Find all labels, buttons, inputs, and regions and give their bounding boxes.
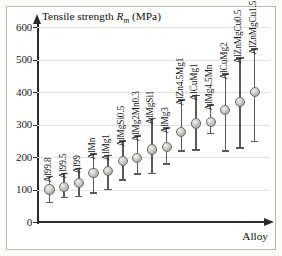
- error-bar-cap-lower: [148, 173, 155, 175]
- data-point-marker[interactable]: [74, 178, 84, 188]
- plot-area: Al99.8Al99.5Al99AlMnAlMg1AlMgSi0.5AlMg2M…: [37, 27, 270, 222]
- x-axis-category-label: AlMg4.5Mn: [205, 65, 215, 111]
- error-bar-cap-lower: [61, 197, 68, 199]
- y-axis-tick-label: 0: [0, 217, 32, 228]
- x-axis-category-label: AlMgSi1: [146, 90, 156, 124]
- y-axis-tick-label: 300: [0, 119, 32, 130]
- data-point-marker[interactable]: [88, 168, 98, 178]
- x-axis-category-label: AlCuMg1: [190, 64, 200, 101]
- data-point-marker[interactable]: [176, 127, 186, 137]
- y-axis-tick-label: 400: [0, 87, 32, 98]
- error-bar-cap-lower: [236, 147, 243, 149]
- y-axis-tick-label: 500: [0, 54, 32, 65]
- x-axis-category-label: AlCuMg2: [219, 43, 229, 80]
- error-bar-cap-lower: [192, 149, 199, 151]
- x-axis-category-label: Al99.8: [43, 157, 53, 182]
- chart-title: Tensile strength Rm (MPa): [42, 10, 161, 27]
- data-point-marker[interactable]: [220, 105, 230, 115]
- error-bar-cap-lower: [163, 163, 170, 165]
- error-bar-cap-lower: [90, 192, 97, 194]
- y-axis-tick-label: 100: [0, 184, 32, 195]
- chart-title-lead: Tensile strength: [42, 10, 117, 22]
- y-axis-arrow-icon: [33, 14, 41, 24]
- data-point-marker[interactable]: [250, 87, 260, 97]
- x-axis-category-label: AlMgSi0.5: [117, 106, 127, 147]
- figure-canvas: Tensile strength Rm (MPa) 01002003004005…: [0, 0, 282, 256]
- chart-title-units: (MPa): [129, 10, 161, 22]
- x-axis-category-label: AlMg1: [102, 135, 112, 161]
- x-axis-category-label: AlMg3: [161, 107, 171, 133]
- x-axis-category-label: AlZnMgCu1.5: [249, 1, 259, 55]
- error-bar-cap-lower: [119, 179, 126, 181]
- y-axis-tick-label: 600: [0, 22, 32, 33]
- data-point-marker[interactable]: [191, 118, 201, 128]
- x-axis-category-label: AlMn: [87, 137, 97, 159]
- y-axis-tick-mark: [33, 222, 37, 223]
- x-axis-category-label: AlZnMgCu0.5: [234, 9, 244, 63]
- error-bar-cap-lower: [104, 189, 111, 191]
- data-point-marker[interactable]: [44, 184, 54, 194]
- error-bar-cap-lower: [75, 196, 82, 198]
- x-axis-category-label: AlMg2Mn0.3: [131, 91, 141, 141]
- data-point-marker[interactable]: [59, 182, 69, 192]
- x-axis-category-label: Al99: [73, 156, 83, 174]
- error-bar: [181, 100, 183, 151]
- data-point-marker[interactable]: [147, 144, 157, 154]
- x-axis-category-label: Al99.5: [58, 154, 68, 179]
- error-bar-cap-lower: [207, 133, 214, 135]
- data-point-marker[interactable]: [235, 97, 245, 107]
- error-bar-cap-lower: [134, 173, 141, 175]
- x-axis-category-label: AlZn4.5Mg1: [175, 58, 185, 106]
- error-bar-cap-lower: [178, 150, 185, 152]
- error-bar-cap-lower: [222, 150, 229, 152]
- data-point-marker[interactable]: [162, 142, 172, 152]
- data-point-marker[interactable]: [118, 156, 128, 166]
- error-bar-cap-lower: [46, 202, 53, 204]
- error-bar-cap-lower: [251, 141, 258, 143]
- x-axis-label: Alloy: [242, 230, 268, 242]
- data-point-marker[interactable]: [206, 117, 216, 127]
- data-point-marker[interactable]: [103, 166, 113, 176]
- data-point-marker[interactable]: [132, 153, 142, 163]
- y-axis-tick-label: 200: [0, 152, 32, 163]
